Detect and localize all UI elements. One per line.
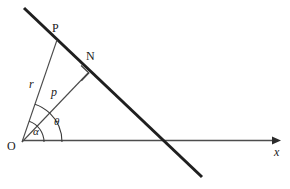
segment-label-r: r [29, 78, 34, 90]
x-axis-arrowhead-icon [272, 137, 281, 145]
point-label-n: N [86, 50, 95, 62]
angle-label-alpha: α [33, 126, 39, 137]
point-label-p: P [52, 22, 59, 34]
angle-label-theta: θ [54, 116, 59, 127]
geometry-diagram: O P N r p α θ x [0, 0, 290, 189]
diagram-canvas [0, 0, 290, 189]
angle-arc-theta-extension [35, 104, 50, 113]
axis-label-x: x [274, 146, 279, 158]
point-label-o: O [7, 140, 16, 152]
x-axis [22, 137, 281, 145]
segment-label-p: p [51, 86, 57, 98]
